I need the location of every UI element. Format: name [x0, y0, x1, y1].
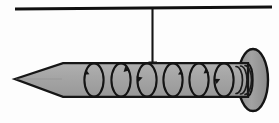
figure-container	[0, 0, 279, 123]
diagram-background	[0, 0, 279, 123]
nail-suspension-diagram	[0, 0, 279, 123]
support-line	[15, 7, 272, 9]
